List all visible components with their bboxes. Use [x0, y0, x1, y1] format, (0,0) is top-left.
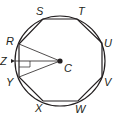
z-arrowhead-icon — [11, 59, 15, 63]
label-t: T — [78, 5, 86, 17]
geometry-figure: R S T U V W X Y Z C — [0, 0, 119, 118]
label-z: Z — [0, 55, 8, 67]
label-v: V — [104, 76, 113, 88]
octagon-diagram: R S T U V W X Y Z C — [0, 0, 119, 118]
label-x: X — [34, 102, 43, 114]
label-u: U — [104, 37, 112, 49]
segment-cy — [19, 61, 60, 77]
center-point — [57, 58, 62, 63]
label-r: R — [6, 35, 14, 47]
label-y: Y — [6, 76, 14, 88]
segment-cr — [19, 44, 60, 61]
right-angle-mark — [19, 61, 30, 67]
label-w: W — [75, 103, 87, 115]
label-c: C — [64, 62, 72, 74]
label-s: S — [36, 5, 44, 17]
